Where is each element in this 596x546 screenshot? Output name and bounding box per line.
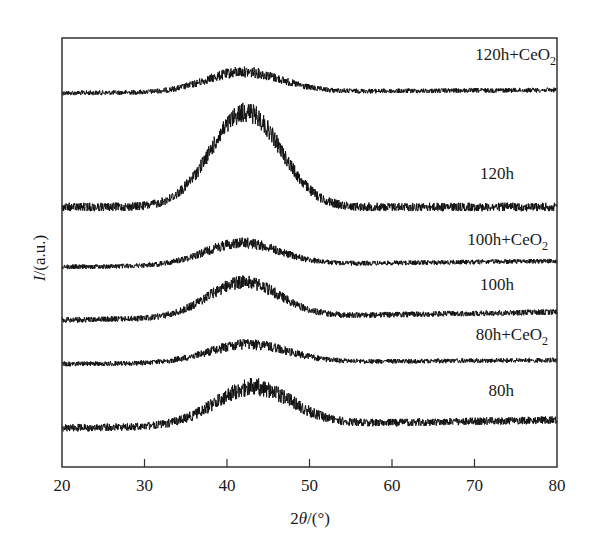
trace-80h <box>62 378 557 431</box>
series-label: 80h <box>489 381 515 400</box>
x-tick-label: 60 <box>384 476 401 495</box>
x-axis-title-unit: /(°) <box>307 509 330 528</box>
trace-120h <box>62 103 557 211</box>
x-tick-label: 70 <box>466 476 483 495</box>
series-label: 100h <box>480 275 515 294</box>
x-axis-title: 2θ/(°) <box>290 509 330 528</box>
x-axis-title-2: 2 <box>290 509 299 528</box>
x-tick-label: 40 <box>219 476 236 495</box>
x-tick-label: 30 <box>136 476 153 495</box>
x-axis-ticks: 20304050607080 <box>54 459 566 495</box>
series-label: 80h+CeO2 <box>476 325 548 348</box>
x-axis-title-theta: θ <box>299 509 307 528</box>
series-label: 120h+CeO2 <box>475 45 556 68</box>
trace-group <box>62 67 557 432</box>
x-tick-label: 20 <box>54 476 71 495</box>
plot-frame <box>62 38 557 467</box>
y-axis-title-unit: /(a.u.) <box>30 235 49 276</box>
series-labels: 120h+CeO2120h100h+CeO2100h80h+CeO280h <box>467 45 556 400</box>
series-label: 100h+CeO2 <box>467 230 548 253</box>
x-tick-label: 50 <box>301 476 318 495</box>
series-label: 120h <box>480 164 515 183</box>
y-axis-title: I/(a.u.) <box>30 235 49 282</box>
xrd-chart: 20304050607080 120h+CeO2120h100h+CeO2100… <box>0 0 596 546</box>
x-tick-label: 80 <box>549 476 566 495</box>
trace-120h-ceo2 <box>62 67 557 96</box>
